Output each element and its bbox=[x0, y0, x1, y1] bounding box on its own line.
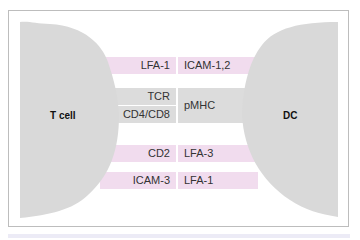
dc-label: DC bbox=[283, 110, 297, 121]
t-cell-label: T cell bbox=[50, 110, 76, 121]
